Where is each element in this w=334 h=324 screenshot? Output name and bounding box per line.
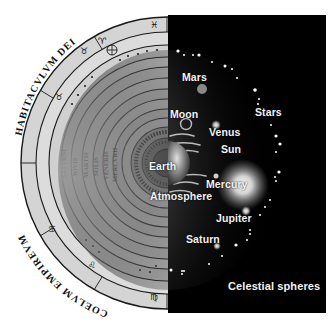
label-celestial-spheres: Celestial spheres (228, 280, 320, 292)
label-sun: Sun (221, 143, 241, 155)
geocentric-cosmos-diagram: SATVRNI IOVIS MARTIS SOLIS VENERIS MERCV… (0, 0, 334, 324)
label-saturn: Saturn (186, 233, 220, 245)
svg-text:♋: ♋ (48, 224, 56, 234)
svg-text:♈: ♈ (98, 36, 107, 46)
svg-text:♉: ♉ (55, 92, 63, 102)
label-jupiter: Jupiter (216, 212, 252, 224)
label-atmosphere: Atmosphere (150, 190, 212, 202)
label-mars: Mars (182, 71, 207, 83)
svg-text:♓: ♓ (150, 20, 158, 30)
svg-text:♉: ♉ (80, 46, 88, 56)
label-earth: Earth (149, 160, 176, 172)
label-moon: Moon (170, 108, 198, 120)
svg-text:♍: ♍ (150, 292, 158, 302)
label-stars: Stars (255, 106, 282, 118)
label-venus: Venus (209, 126, 240, 138)
svg-text:♌: ♌ (88, 260, 96, 270)
mars-glyph (197, 84, 207, 94)
label-mercury: Mercury (206, 178, 248, 190)
